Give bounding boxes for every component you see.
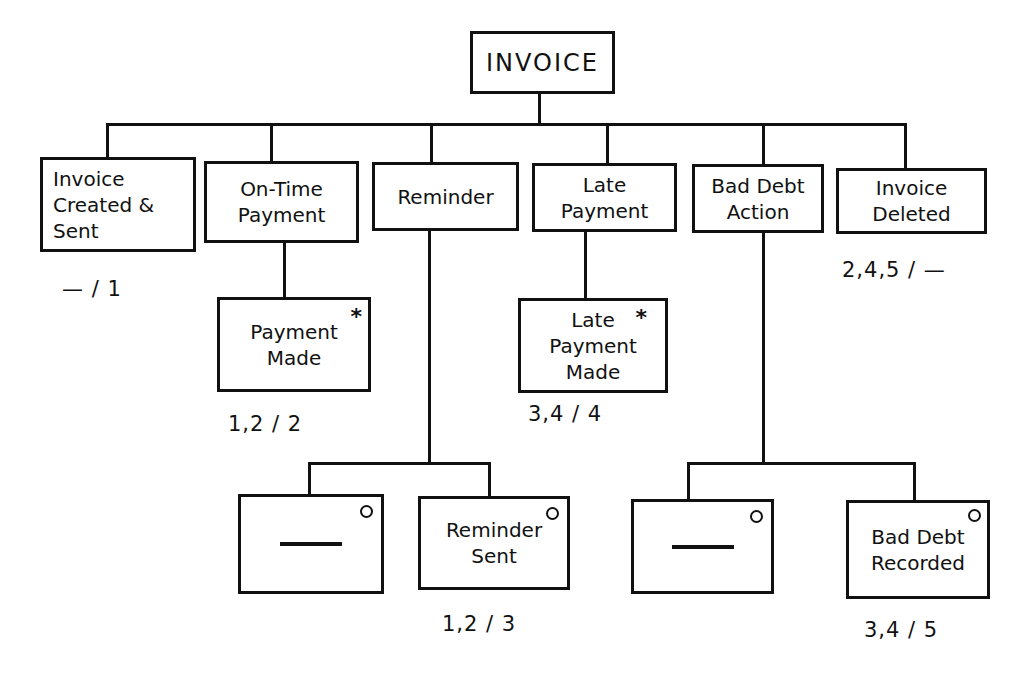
- node-bad-debt-recorded: Bad Debt Recorded: [846, 500, 990, 599]
- reminder-l-stem: [308, 462, 311, 495]
- node-late-payment-made: Late Payment Made *: [518, 298, 668, 393]
- level1-bar: [106, 123, 906, 126]
- line: On-Time: [240, 176, 323, 202]
- line: Reminder: [446, 517, 542, 543]
- baddebt-bar: [687, 462, 915, 465]
- note-invoice-deleted: 2,4,5 / —: [842, 258, 946, 282]
- node-invoice-created-sent: Invoice Created & Sent: [40, 157, 196, 252]
- node-late-payment: Late Payment: [532, 163, 677, 232]
- baddebt-r-stem: [913, 462, 916, 502]
- late-stem: [584, 230, 587, 300]
- reminder-bar: [308, 462, 490, 465]
- stem-3: [430, 123, 433, 163]
- circle-marker-icon: [750, 510, 763, 523]
- reminder-r-stem: [488, 462, 491, 496]
- line: Deleted: [872, 201, 950, 227]
- line: Action: [727, 199, 790, 225]
- note-bad-debt-recorded: 3,4 / 5: [864, 618, 938, 642]
- note-late-payment-made: 3,4 / 4: [528, 402, 602, 426]
- node-reminder-null: [238, 494, 384, 594]
- stem-4: [606, 123, 609, 163]
- circle-marker-icon: [968, 509, 981, 522]
- invoice-root-node: INVOICE: [470, 31, 615, 94]
- stem-5: [762, 123, 765, 165]
- line: Bad Debt: [871, 524, 964, 550]
- line: Made: [566, 359, 621, 385]
- line: Invoice: [876, 175, 948, 201]
- stem-6: [904, 123, 907, 168]
- circle-marker-icon: [546, 507, 559, 520]
- node-invoice-deleted: Invoice Deleted: [836, 168, 987, 234]
- node-reminder: Reminder: [372, 162, 519, 231]
- null-dash-icon: [280, 542, 342, 546]
- node-bad-debt-null: [631, 499, 774, 594]
- line: Recorded: [871, 550, 965, 576]
- baddebt-l-stem: [687, 462, 690, 500]
- line: Reminder: [397, 184, 493, 210]
- line: Late: [571, 307, 615, 333]
- note-invoice-created: — / 1: [62, 277, 122, 301]
- stem-2: [270, 123, 273, 163]
- note-payment-made: 1,2 / 2: [228, 412, 302, 436]
- line: Made: [267, 345, 322, 371]
- line: Bad Debt: [711, 173, 804, 199]
- ontime-stem: [283, 242, 286, 298]
- node-on-time-payment: On-Time Payment: [204, 161, 359, 243]
- line: Payment: [561, 198, 649, 224]
- note-reminder-sent: 1,2 / 3: [442, 612, 516, 636]
- asterisk-marker-icon: *: [635, 307, 647, 329]
- null-dash-icon: [672, 545, 734, 549]
- reminder-stem: [428, 230, 431, 464]
- line: Invoice: [53, 166, 125, 192]
- line: Payment: [250, 319, 338, 345]
- node-reminder-sent: Reminder Sent: [418, 496, 570, 590]
- node-label: INVOICE: [486, 50, 599, 76]
- baddebt-stem: [762, 230, 765, 464]
- stem-1: [106, 123, 109, 158]
- line: Payment: [549, 333, 637, 359]
- line: Payment: [238, 202, 326, 228]
- root-stem: [538, 91, 541, 125]
- line: Late: [583, 172, 627, 198]
- line: Created &: [53, 192, 154, 218]
- node-bad-debt-action: Bad Debt Action: [692, 164, 824, 233]
- node-payment-made: Payment Made *: [217, 297, 371, 392]
- line: Sent: [53, 218, 99, 244]
- circle-marker-icon: [360, 505, 373, 518]
- asterisk-marker-icon: *: [350, 306, 362, 328]
- line: Sent: [471, 543, 517, 569]
